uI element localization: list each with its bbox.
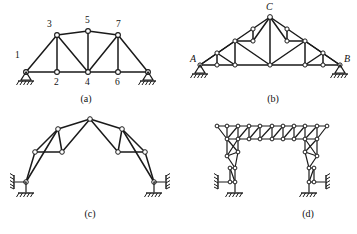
figure-c-svg [0, 110, 180, 210]
node-label-1: 1 [15, 50, 20, 60]
node-label-4: 4 [85, 77, 90, 87]
node-label-5: 5 [85, 15, 90, 25]
figure-d [205, 112, 357, 212]
node-label-B: B [344, 53, 350, 64]
support-left-c [10, 174, 34, 198]
caption-c: (c) [70, 208, 110, 219]
node-label-7: 7 [116, 19, 121, 29]
node-label-C: C [266, 1, 273, 12]
support-pin-left-a [17, 72, 35, 85]
figure-b-svg [185, 0, 357, 95]
caption-a: (a) [66, 93, 106, 104]
figure-d-svg [205, 112, 357, 212]
node-label-A: A [190, 53, 196, 64]
figure-b [185, 0, 357, 95]
support-right-c [145, 174, 171, 198]
support-roller-right-b [331, 65, 349, 78]
truss-b-members [200, 17, 340, 65]
node-label-6: 6 [115, 77, 120, 87]
support-roller-right-a [139, 72, 157, 85]
caption-b: (b) [253, 93, 293, 104]
node-label-3: 3 [47, 19, 52, 29]
figure-a [0, 0, 180, 95]
frame-c-nodes [24, 117, 157, 185]
figure-a-svg [0, 0, 180, 95]
support-pin-left-b [191, 65, 209, 78]
node-label-2: 2 [54, 77, 59, 87]
truss-a-members [26, 31, 148, 72]
figure-c [0, 110, 180, 210]
caption-d: (d) [288, 208, 328, 219]
frame-c-members [26, 119, 154, 182]
